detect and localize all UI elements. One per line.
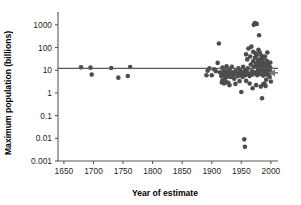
data-point: [88, 65, 93, 70]
x-tick-label: 1850: [173, 166, 192, 176]
data-point: [217, 41, 222, 46]
data-point: [116, 75, 121, 80]
data-point: [260, 96, 265, 101]
data-point: [264, 77, 269, 82]
data-point: [263, 54, 268, 59]
data-point: [209, 73, 214, 78]
data-point: [220, 78, 225, 83]
x-tick-label: 1800: [143, 166, 162, 176]
data-point: [250, 86, 255, 91]
data-point: [227, 83, 232, 88]
population-estimates-scatter-plot: 10001001010.10.010.001 16501700175018001…: [0, 0, 301, 205]
data-point: [254, 22, 259, 27]
y-tick-label: 0.001: [31, 156, 52, 166]
y-tick-label: 100: [38, 43, 52, 53]
x-tick-label: 1900: [202, 166, 221, 176]
data-point: [249, 44, 254, 49]
data-point: [215, 61, 220, 66]
x-tick-label: 1700: [84, 166, 103, 176]
y-tick-label: 1000: [33, 20, 52, 30]
data-point: [268, 60, 273, 65]
y-tick-label: 10: [43, 65, 53, 75]
y-tick-label: 1: [47, 88, 52, 98]
data-point: [263, 84, 268, 89]
data-point: [269, 79, 274, 84]
data-point: [233, 82, 238, 87]
data-point: [214, 69, 219, 74]
data-point: [239, 90, 244, 95]
data-point: [242, 137, 247, 142]
data-point: [265, 50, 270, 55]
x-tick-label: 1650: [55, 166, 74, 176]
data-point: [254, 83, 259, 88]
y-axis-tick-labels: 10001001010.10.010.001: [31, 20, 52, 166]
data-point: [125, 74, 130, 79]
data-point: [89, 72, 94, 77]
data-point: [204, 73, 209, 78]
chart-figure: 10001001010.10.010.001 16501700175018001…: [0, 0, 301, 205]
data-point: [257, 33, 262, 38]
data-point: [268, 65, 273, 70]
x-tick-label: 1950: [232, 166, 251, 176]
data-point: [248, 54, 253, 59]
y-axis-title: Maximum population (billions): [3, 31, 13, 155]
data-point: [244, 79, 249, 84]
x-axis-tick-labels: 16501700175018001850190019502000: [55, 166, 281, 176]
y-tick-label: 0.01: [36, 133, 53, 143]
x-axis-title: Year of estimate: [132, 188, 198, 198]
data-point: [259, 84, 264, 89]
data-point: [243, 145, 248, 150]
x-tick-label: 2000: [262, 166, 281, 176]
data-point: [237, 79, 242, 84]
y-tick-label: 0.1: [40, 111, 52, 121]
scatter-data-points: [79, 21, 273, 149]
x-tick-label: 1750: [114, 166, 133, 176]
data-point: [244, 52, 249, 57]
